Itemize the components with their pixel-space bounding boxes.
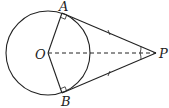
radius-OB — [48, 53, 62, 93]
radius-OA — [48, 13, 62, 53]
label-P: P — [158, 46, 168, 61]
angle-arc-BPO — [140, 53, 141, 59]
label-A: A — [58, 0, 68, 14]
label-O: O — [35, 47, 46, 62]
tangent-diagram: A B O P — [0, 0, 169, 108]
label-B: B — [60, 94, 71, 108]
angle-arc-APO — [140, 47, 141, 53]
